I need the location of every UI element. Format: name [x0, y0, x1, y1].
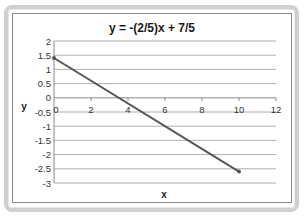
svg-text:-2: -2: [43, 149, 51, 160]
svg-text:12: 12: [271, 104, 282, 115]
svg-text:-0.5: -0.5: [35, 107, 51, 118]
svg-text:2: 2: [88, 104, 93, 115]
svg-text:0: 0: [46, 92, 51, 103]
svg-text:1.5: 1.5: [38, 50, 51, 61]
chart-title: y = -(2/5)x + 7/5: [109, 21, 195, 35]
svg-text:0: 0: [53, 104, 58, 115]
data-point: [237, 170, 241, 174]
y-tick-labels: 2 1.5 1 0.5 0 -0.5 -1 -1.5 -2 -2.5 -3: [35, 36, 51, 189]
y-axis-label: y: [21, 101, 27, 112]
svg-text:6: 6: [162, 104, 167, 115]
svg-text:8: 8: [199, 104, 204, 115]
svg-text:-2.5: -2.5: [35, 163, 51, 174]
svg-text:2: 2: [46, 36, 51, 47]
data-point: [52, 56, 56, 60]
x-tick-labels: 0 2 4 6 8 10 12: [53, 104, 281, 115]
svg-text:-1.5: -1.5: [35, 135, 51, 146]
svg-text:-3: -3: [43, 178, 51, 189]
svg-text:10: 10: [234, 104, 245, 115]
x-axis-label: x: [161, 189, 167, 200]
svg-text:0.5: 0.5: [38, 78, 51, 89]
svg-text:-1: -1: [43, 121, 51, 132]
chart-svg: y = -(2/5)x + 7/5 2 1.5 1 0.5 0 -0.5 -1 …: [0, 0, 305, 217]
svg-text:1: 1: [46, 64, 51, 75]
